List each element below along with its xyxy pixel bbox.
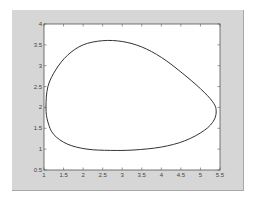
x-tick-label: 5.5 xyxy=(216,172,225,178)
x-tick-label: 2 xyxy=(81,172,85,178)
x-tick-label: 4 xyxy=(160,172,164,178)
x-tick-label: 4.5 xyxy=(177,172,186,178)
y-tick-label: 1.5 xyxy=(34,125,43,131)
y-tick-label: 3.5 xyxy=(34,42,43,48)
y-tick-label: 2 xyxy=(39,104,43,110)
y-tick-label: 4 xyxy=(39,21,43,27)
x-tick-label: 1 xyxy=(42,172,46,178)
plot-area: 11.522.533.544.555.5 0.511.522.533.54 xyxy=(0,0,254,198)
x-tick-label: 2.5 xyxy=(98,172,107,178)
x-tick-label: 3 xyxy=(121,172,125,178)
x-tick-label: 5 xyxy=(199,172,203,178)
x-tick-label: 3.5 xyxy=(138,172,147,178)
x-tick-label: 1.5 xyxy=(59,172,68,178)
axes-box xyxy=(44,24,220,170)
y-tick-label: 3 xyxy=(39,63,43,69)
y-tick-label: 2.5 xyxy=(34,84,43,90)
y-tick-label: 1 xyxy=(39,146,43,152)
y-tick-label: 0.5 xyxy=(34,167,43,173)
